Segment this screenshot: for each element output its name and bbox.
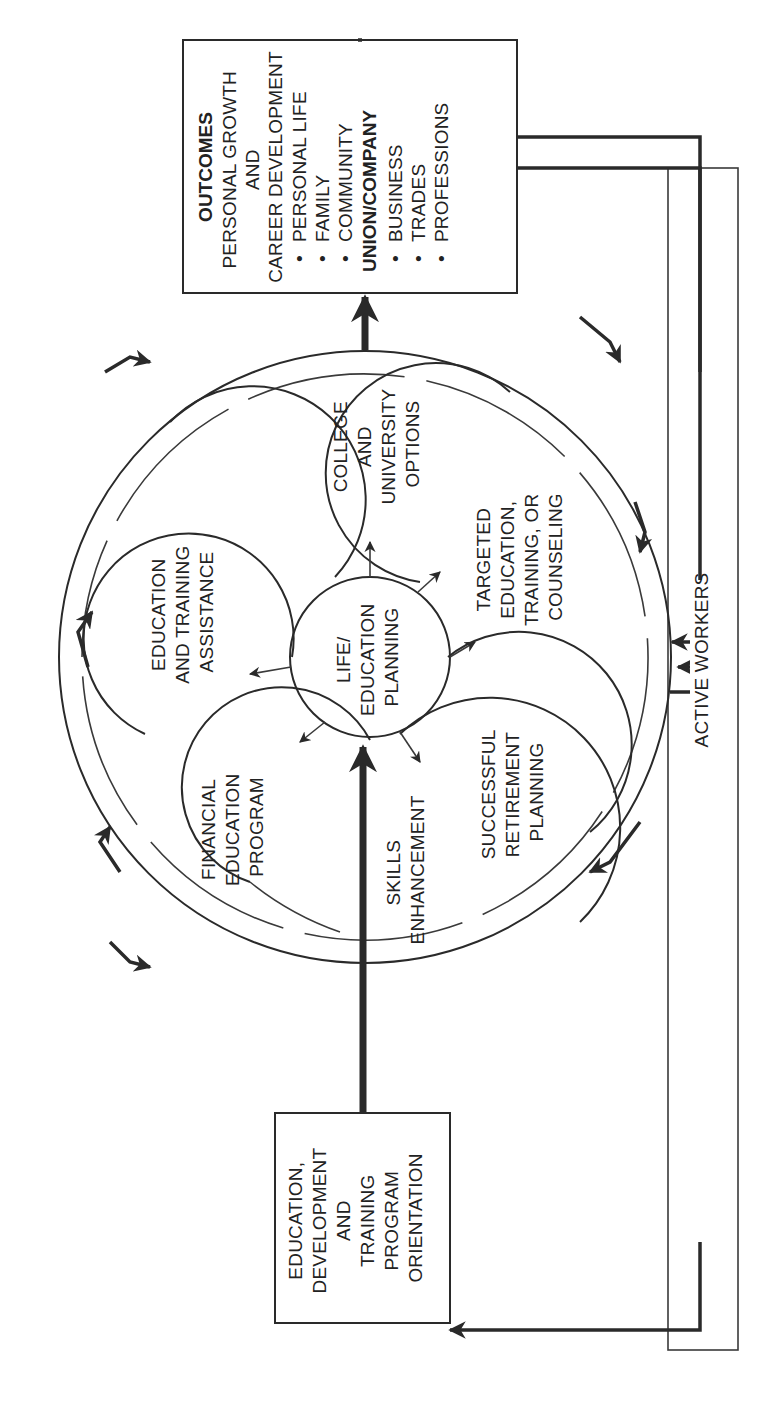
svg-text:EDUCATION, DEVELOPMENT: EDUCATION, DEVELOPMENT AND TRAINING PROG… [285,1143,426,1294]
bullet: • [385,255,406,262]
bullet: • [312,255,333,262]
svg-text:• COMMUNITY: • COMMUNITY [335,123,356,262]
outcomes-feedback-connector [517,137,700,372]
svg-text:• PERSONAL LIFE: • PERSONAL LIFE [289,91,310,262]
outcomes-subheading-line: PERSONAL GROWTH [219,71,240,269]
input-box-line: EDUCATION, [285,1162,306,1280]
input-box-line: ORIENTATION [405,1153,426,1282]
petal-label-line: COUNSELING [545,493,566,621]
petal-label-line: SKILLS [383,840,404,906]
center-label-line: LIFE/ [333,636,354,683]
petal-label-line: ASSISTANCE [196,552,217,673]
petal-label-line: TRAINING, OR [521,494,542,626]
svg-text:• FAMILY: • FAMILY [312,175,333,262]
input-box-line: DEVELOPMENT [309,1147,330,1293]
svg-text:• BUSINESS: • BUSINESS [385,144,406,262]
outcomes-group-item: PROFESSIONS [431,103,452,242]
outcomes-personal-item: PERSONAL LIFE [289,91,310,242]
input-box-line: AND [333,1200,354,1241]
center-label-line: PLANNING [381,608,402,707]
diagram-canvas: EDUCATION, DEVELOPMENT AND TRAINING PROG… [0,0,765,1402]
petal-label-line: EDUCATION [148,559,169,671]
petal-label-line: AND TRAINING [172,546,193,684]
petal-label-line: AND [354,426,375,467]
petal-label-line: FINANCIAL [198,780,219,880]
petal-label-line: PROGRAM [246,777,267,877]
outcomes-group-heading: UNION/COMPANY [359,109,380,272]
outcomes-subheading-line: AND [242,149,263,190]
bullet: • [335,255,356,262]
center-label: LIFE/ EDUCATION PLANNING [333,598,402,716]
petal-label-line: ENHANCEMENT [407,795,428,944]
petal-label-financial: FINANCIAL EDUCATION PROGRAM [198,768,267,886]
petal-label-line: SUCCESSFUL [478,730,499,859]
bullet: • [289,255,310,262]
petal-label-retirement: SUCCESSFUL RETIREMENT PLANNING [478,725,547,860]
petal-label-line: PLANNING [526,743,547,842]
petal-label-line: TARGETED [473,508,494,612]
bullet: • [431,255,452,262]
petal-label-line: EDUCATION, [497,501,518,619]
active-workers-label: ACTIVE WORKERS [691,573,712,748]
petal-label-targeted: TARGETED EDUCATION, TRAINING, OR COUNSEL… [473,488,566,626]
svg-text:• TRADES: • TRADES [408,164,429,262]
petal-label-skills: SKILLS ENHANCEMENT [383,795,428,944]
outcomes-box-content: OUTCOMES PERSONAL GROWTH AND CAREER DEVE… [195,51,452,283]
svg-text:PERSONAL GROWTH AND: PERSONAL GROWTH AND CAREER DEVELOPMENT [219,51,286,283]
petal-label-line: COLLEGE [330,401,351,492]
petal-label-line: RETIREMENT [502,732,523,858]
outcomes-group-item: TRADES [408,164,429,242]
input-box-line: PROGRAM [381,1171,402,1271]
outcomes-subheading-line: CAREER DEVELOPMENT [265,51,286,283]
petal-label-line: EDUCATION [222,774,243,886]
outcomes-heading: OUTCOMES [195,112,216,222]
center-label-line: EDUCATION [357,604,378,716]
diagram-stage: EDUCATION, DEVELOPMENT AND TRAINING PROG… [0,0,765,1402]
outcomes-personal-item: COMMUNITY [335,123,356,242]
svg-text:• PROFESSIONS: • PROFESSIONS [431,103,452,262]
outcomes-group-item: BUSINESS [385,144,406,242]
petal-label-college: COLLEGE AND UNIVERSITY OPTIONS [330,383,423,504]
bullet: • [408,255,429,262]
input-box-label: EDUCATION, DEVELOPMENT AND TRAINING PROG… [285,1143,426,1294]
petal-label-line: UNIVERSITY [378,388,399,504]
petal-label-education-training: EDUCATION AND TRAINING ASSISTANCE [148,540,217,684]
outcomes-personal-item: FAMILY [312,175,333,242]
input-box-line: TRAINING [357,1175,378,1267]
petal-label-line: OPTIONS [402,401,423,488]
active-workers-channel [668,168,738,1350]
